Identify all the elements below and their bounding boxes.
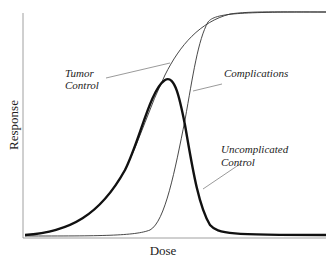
label-uncomplicated-line1: Uncomplicated [221, 143, 289, 155]
label-tumor-line2: Control [65, 79, 99, 91]
uncomplicated-control-curve [25, 79, 326, 235]
complications-leader-line [193, 84, 222, 91]
dose-response-chart: Tumor Control Complications Uncomplicate… [0, 0, 333, 261]
label-tumor-line1: Tumor [65, 67, 94, 79]
y-axis-title: Response [6, 100, 21, 150]
label-uncomplicated-line2: Control [221, 156, 255, 168]
tumor-control-curve [25, 12, 326, 235]
tumor-leader-line [106, 63, 170, 78]
x-axis-title: Dose [150, 243, 177, 258]
complications-curve [25, 12, 326, 236]
label-complications: Complications [224, 67, 288, 79]
